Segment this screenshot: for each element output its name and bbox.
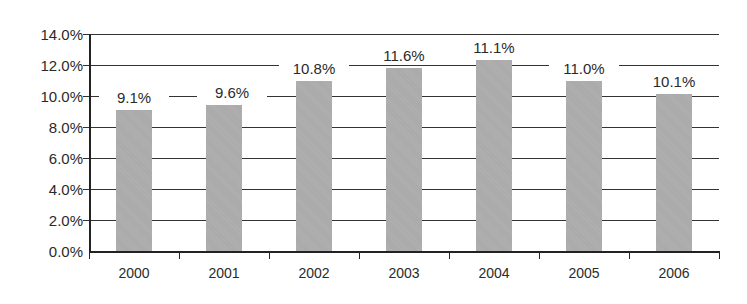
x-tick-label: 2005 — [539, 265, 629, 281]
bar-chart: 0.0%2.0%4.0%6.0%8.0%10.0%12.0%14.0%9.1%2… — [0, 0, 747, 304]
gridline — [83, 65, 719, 66]
bar-2004 — [476, 60, 512, 251]
y-tick-label: 0.0% — [49, 243, 83, 260]
x-tick-label: 2006 — [629, 265, 719, 281]
x-tick-mark — [539, 251, 540, 259]
y-tick-label: 12.0% — [40, 57, 83, 74]
gridline — [83, 34, 719, 35]
bar-2002 — [296, 81, 332, 252]
y-tick-label: 14.0% — [40, 26, 83, 43]
y-axis — [89, 34, 91, 252]
x-tick-mark — [629, 251, 630, 259]
x-tick-mark — [89, 251, 90, 259]
data-label: 11.1% — [459, 40, 529, 56]
x-tick-mark — [449, 251, 450, 259]
y-tick-label: 10.0% — [40, 88, 83, 105]
x-tick-label: 2001 — [179, 265, 269, 281]
x-tick-label: 2004 — [449, 265, 539, 281]
data-label: 10.1% — [639, 74, 709, 90]
bar-2005 — [566, 81, 602, 252]
y-tick-label: 8.0% — [49, 119, 83, 136]
bar-2003 — [386, 68, 422, 251]
x-tick-label: 2000 — [89, 265, 179, 281]
x-tick-mark — [179, 251, 180, 259]
x-tick-mark — [719, 251, 720, 259]
data-label: 9.6% — [197, 85, 267, 101]
data-label: 9.1% — [99, 90, 169, 106]
bar-2001 — [206, 105, 242, 251]
x-axis — [89, 251, 719, 253]
x-tick-mark — [269, 251, 270, 259]
y-tick-label: 6.0% — [49, 150, 83, 167]
bar-2006 — [656, 94, 692, 251]
bar-2000 — [116, 110, 152, 251]
y-tick-label: 2.0% — [49, 212, 83, 229]
data-label: 10.8% — [279, 61, 349, 77]
data-label: 11.0% — [549, 61, 619, 77]
x-tick-label: 2003 — [359, 265, 449, 281]
x-tick-mark — [359, 251, 360, 259]
data-label: 11.6% — [369, 48, 439, 64]
y-tick-label: 4.0% — [49, 181, 83, 198]
x-tick-label: 2002 — [269, 265, 359, 281]
